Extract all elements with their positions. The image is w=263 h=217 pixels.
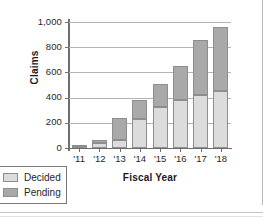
bar-segment-pending <box>213 27 228 91</box>
x-tick-mark <box>140 148 141 152</box>
chart-legend: DecidedPending <box>0 166 67 204</box>
y-tick-label: 600 <box>46 66 62 77</box>
y-tick-mark <box>65 123 69 124</box>
y-tick-label: 400 <box>46 91 62 102</box>
y-tick-mark <box>65 98 69 99</box>
bar-12[interactable] <box>92 140 107 148</box>
bar-segment-decided <box>112 140 127 148</box>
bar-segment-pending <box>132 100 147 119</box>
x-tick-mark <box>79 148 80 152</box>
bar-18[interactable] <box>213 27 228 148</box>
bar-segment-decided <box>193 95 208 148</box>
y-axis-title: Claims <box>29 28 40 108</box>
x-tick-mark <box>99 148 100 152</box>
bar-segment-decided <box>132 119 147 148</box>
y-tick-label: 200 <box>46 116 62 127</box>
bar-segment-decided <box>153 107 168 148</box>
figure-bottom-border-2 <box>0 216 263 217</box>
legend-swatch-pending <box>3 188 18 197</box>
bar-segment-pending <box>193 40 208 95</box>
bar-segment-decided <box>213 91 228 148</box>
x-axis-line <box>68 148 232 149</box>
y-tick-label: 800 <box>46 41 62 52</box>
bar-15[interactable] <box>153 84 168 148</box>
legend-label: Pending <box>24 187 61 198</box>
x-tick-mark <box>160 148 161 152</box>
x-tick-mark <box>180 148 181 152</box>
legend-item-pending[interactable]: Pending <box>3 185 63 200</box>
y-tick-mark <box>65 22 69 23</box>
bar-segment-pending <box>112 118 127 139</box>
plot-area: 02004006008001,000 '11'12'13'14'15'16'17… <box>69 22 231 148</box>
bar-17[interactable] <box>193 40 208 148</box>
figure-right-border <box>262 0 263 205</box>
y-axis-line <box>68 19 70 151</box>
bar-segment-pending <box>92 140 107 143</box>
legend-label: Decided <box>24 172 61 183</box>
legend-item-decided[interactable]: Decided <box>3 170 63 185</box>
bar-13[interactable] <box>112 118 127 148</box>
y-tick-label: 1,000 <box>38 16 62 27</box>
gridline <box>69 22 231 23</box>
x-tick-mark <box>120 148 121 152</box>
x-tick-label: '18 <box>209 153 233 164</box>
chart-figure: 02004006008001,000 '11'12'13'14'15'16'17… <box>0 0 263 217</box>
x-tick-mark <box>221 148 222 152</box>
x-axis-title: Fiscal Year <box>69 172 231 183</box>
figure-bottom-border <box>0 212 263 213</box>
bar-segment-pending <box>72 145 87 147</box>
bar-segment-decided <box>173 100 188 148</box>
bar-segment-pending <box>153 84 168 107</box>
bar-14[interactable] <box>132 100 147 149</box>
y-tick-mark <box>65 47 69 48</box>
x-tick-mark <box>201 148 202 152</box>
y-tick-mark <box>65 72 69 73</box>
bar-16[interactable] <box>173 66 188 148</box>
y-tick-mark <box>65 148 69 149</box>
legend-swatch-decided <box>3 173 18 182</box>
bar-segment-pending <box>173 66 188 100</box>
y-tick-label: 0 <box>57 142 62 153</box>
